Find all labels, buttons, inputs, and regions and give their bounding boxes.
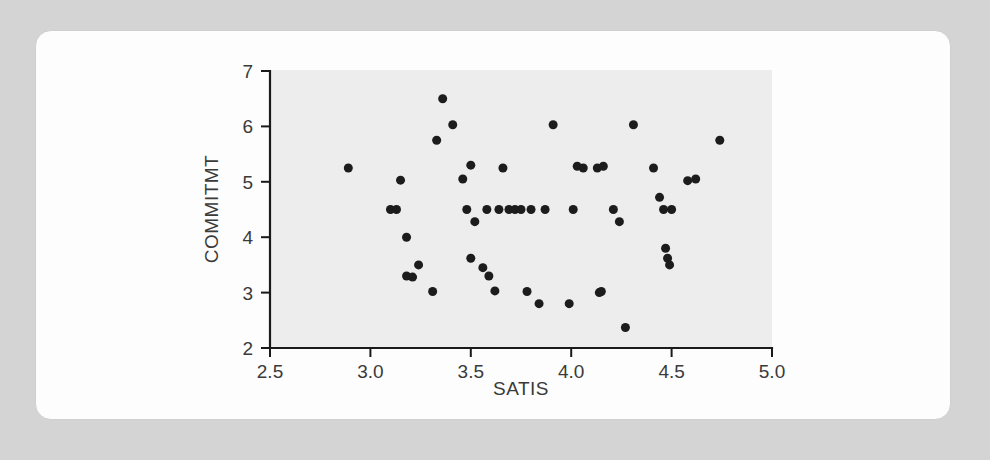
data-point — [458, 175, 467, 184]
data-point — [344, 163, 353, 172]
data-point — [466, 254, 475, 263]
data-point — [466, 161, 475, 170]
page-root: 2.53.03.54.04.55.0 234567 SATIS COMMITMT — [0, 0, 990, 460]
data-point — [432, 136, 441, 145]
data-point — [661, 244, 670, 253]
data-point — [715, 136, 724, 145]
data-point — [535, 299, 544, 308]
x-tick-label: 4.0 — [558, 361, 584, 382]
data-point — [490, 286, 499, 295]
y-axis-title: COMMITMT — [201, 155, 222, 263]
data-point — [498, 163, 507, 172]
data-point — [523, 287, 532, 296]
data-point — [615, 217, 624, 226]
y-tick-label: 6 — [242, 116, 253, 137]
data-point — [484, 271, 493, 280]
data-point — [599, 162, 608, 171]
x-tick-label: 2.5 — [257, 361, 283, 382]
data-point — [414, 260, 423, 269]
data-point — [597, 287, 606, 296]
data-point — [667, 205, 676, 214]
data-point — [478, 263, 487, 272]
data-point — [659, 205, 668, 214]
data-point — [517, 205, 526, 214]
data-point — [392, 205, 401, 214]
x-tick-label: 4.5 — [658, 361, 684, 382]
data-point — [396, 176, 405, 185]
x-tick-label: 3.0 — [357, 361, 383, 382]
y-tick-label: 7 — [242, 61, 253, 82]
data-point — [691, 175, 700, 184]
data-point — [408, 273, 417, 282]
y-tick-label: 3 — [242, 283, 253, 304]
data-point — [665, 260, 674, 269]
data-point — [541, 205, 550, 214]
data-point — [470, 217, 479, 226]
data-point — [494, 205, 503, 214]
data-point — [649, 163, 658, 172]
y-tick-label: 5 — [242, 172, 253, 193]
y-tick-label: 4 — [242, 227, 253, 248]
data-point — [609, 205, 618, 214]
data-point — [629, 120, 638, 129]
data-point — [549, 120, 558, 129]
x-axis-title: SATIS — [493, 378, 549, 399]
data-point — [448, 120, 457, 129]
data-point — [438, 94, 447, 103]
x-tick-label: 3.5 — [458, 361, 484, 382]
data-point — [462, 205, 471, 214]
scatter-plot-figure: 2.53.03.54.04.55.0 234567 SATIS COMMITMT — [0, 0, 990, 460]
x-axis-ticks: 2.53.03.54.04.55.0 — [257, 348, 785, 382]
data-point — [428, 287, 437, 296]
y-axis-ticks: 234567 — [242, 61, 270, 359]
data-point — [402, 233, 411, 242]
data-point — [569, 205, 578, 214]
x-tick-label: 5.0 — [759, 361, 785, 382]
data-point — [482, 205, 491, 214]
data-point — [527, 205, 536, 214]
data-point — [565, 299, 574, 308]
plot-svg: 2.53.03.54.04.55.0 234567 SATIS COMMITMT — [0, 0, 990, 460]
data-point — [655, 193, 664, 202]
data-point — [579, 163, 588, 172]
y-tick-label: 2 — [242, 338, 253, 359]
data-point — [621, 323, 630, 332]
data-point — [683, 176, 692, 185]
